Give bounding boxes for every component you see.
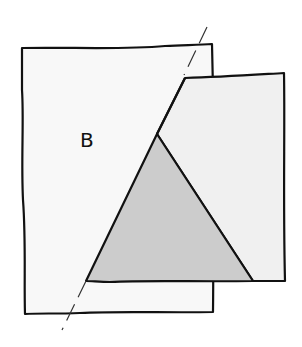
sheet-label: B	[80, 128, 94, 152]
paper-fold-diagram: B	[0, 0, 302, 347]
